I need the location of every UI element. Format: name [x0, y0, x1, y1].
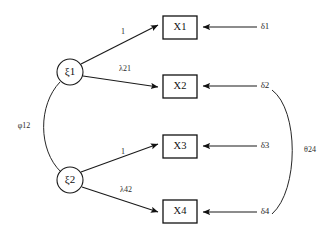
- error-label-delta2: δ2: [261, 80, 270, 90]
- loading-path-xi2-x3: [81, 144, 158, 172]
- indicator-x1[interactable]: X1: [163, 16, 197, 39]
- latent-label-xi1: ξ1: [65, 65, 75, 78]
- latent-factor-xi2[interactable]: ξ2: [57, 167, 83, 193]
- error-label-delta1: δ1: [261, 21, 270, 31]
- loading-path-xi1-x1: [81, 25, 158, 64]
- indicator-x4[interactable]: X4: [163, 200, 197, 223]
- diagram-canvas: ξ1 ξ2 1 λ21 1 λ42 X1 X2 X3: [0, 0, 331, 241]
- sem-path-diagram: ξ1 ξ2 1 λ21 1 λ42 X1 X2 X3: [0, 0, 331, 241]
- covariance-curve-theta24: [272, 90, 292, 214]
- indicator-label-x1: X1: [174, 21, 187, 32]
- loading-label-lambda21: λ21: [119, 64, 131, 73]
- latent-label-xi2: ξ2: [65, 173, 75, 186]
- error-label-delta3: δ3: [261, 140, 270, 150]
- loading-path-xi1-x2: [83, 76, 158, 87]
- covariance-label-phi12: φ12: [18, 121, 31, 130]
- error-label-delta4: δ4: [261, 206, 270, 216]
- covariance-curve-phi12: [44, 82, 61, 172]
- indicator-label-x3: X3: [174, 140, 187, 151]
- indicator-label-x2: X2: [174, 80, 187, 91]
- indicator-x2[interactable]: X2: [163, 75, 197, 98]
- loading-label-lambda42: λ42: [120, 185, 132, 194]
- indicator-x3[interactable]: X3: [163, 135, 197, 158]
- indicator-label-x4: X4: [174, 205, 188, 216]
- loading-label-1-x1: 1: [121, 27, 125, 36]
- covariance-label-theta24: θ24: [304, 145, 316, 154]
- latent-factor-xi1[interactable]: ξ1: [57, 59, 83, 85]
- loading-label-1-x3: 1: [121, 147, 125, 156]
